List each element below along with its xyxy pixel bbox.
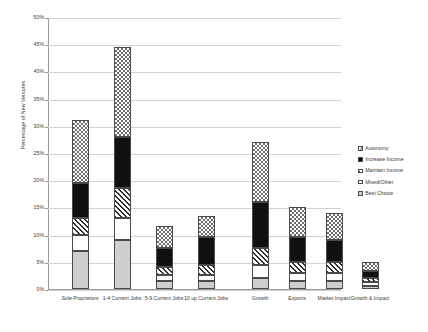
stacked-bar[interactable]	[362, 262, 379, 289]
y-axis-tick-label: 40%	[34, 70, 44, 75]
bar-group[interactable]	[72, 17, 89, 289]
bar-segment[interactable]	[156, 281, 173, 289]
legend-item[interactable]: Increase Income	[358, 154, 426, 165]
y-axis-tick	[45, 181, 48, 182]
y-axis-tick-label: 45%	[34, 43, 44, 48]
bar-group[interactable]	[114, 17, 131, 289]
bar-segment[interactable]	[72, 235, 89, 251]
stacked-bar[interactable]	[156, 226, 173, 289]
bar-group[interactable]	[326, 17, 343, 289]
bar-segment[interactable]	[326, 281, 343, 289]
y-axis-title: Percentage of New Ventures	[20, 40, 26, 190]
bar-segment[interactable]	[252, 278, 269, 289]
bar-segment[interactable]	[289, 237, 306, 261]
bar-segment[interactable]	[156, 267, 173, 275]
bar-segment[interactable]	[252, 142, 269, 202]
bar-segment[interactable]	[252, 248, 269, 264]
legend-swatch-icon	[358, 157, 363, 162]
bar-segment[interactable]	[289, 207, 306, 237]
y-axis-tick	[45, 127, 48, 128]
x-axis-tick-label: Growth & Impact	[344, 295, 396, 302]
y-axis-tick-label: 20%	[34, 179, 44, 184]
stacked-bar[interactable]	[114, 47, 131, 289]
legend-item-label: Autonomy	[365, 146, 388, 151]
bar-segment[interactable]	[289, 281, 306, 289]
bar-segment[interactable]	[114, 137, 131, 189]
bar-segment[interactable]	[72, 251, 89, 289]
bar-segment[interactable]	[362, 282, 379, 286]
y-axis-tick-label: 25%	[34, 151, 44, 156]
bar-segment[interactable]	[289, 262, 306, 273]
y-axis-tick-label: 0%	[37, 287, 45, 292]
bar-group[interactable]	[289, 17, 306, 289]
bar-segment[interactable]	[72, 183, 89, 218]
bar-segment[interactable]	[326, 213, 343, 240]
bar-segment[interactable]	[198, 237, 215, 264]
y-axis-tick	[45, 45, 48, 46]
bar-segment[interactable]	[198, 281, 215, 289]
bar-segment[interactable]	[326, 273, 343, 281]
bar-segment[interactable]	[114, 188, 131, 218]
y-axis-tick	[45, 154, 48, 155]
y-axis-tick	[45, 290, 48, 291]
legend: AutonomyIncrease IncomeMaintain IncomeMi…	[358, 143, 426, 199]
legend-item[interactable]: Mixed/Other	[358, 177, 426, 188]
bar-segment[interactable]	[252, 265, 269, 279]
stacked-bar[interactable]	[198, 216, 215, 289]
bar-segment[interactable]	[289, 273, 306, 281]
bar-segment[interactable]	[156, 248, 173, 267]
legend-swatch-icon	[358, 191, 363, 196]
legend-item-label: Mixed/Other	[365, 180, 393, 185]
legend-swatch-icon	[358, 180, 363, 185]
x-axis-tick-label: 10 up Current Jobs	[180, 295, 232, 302]
bar-segment[interactable]	[362, 271, 379, 278]
stacked-bar-chart: Percentage of New Ventures 0%5%10%15%20%…	[0, 0, 428, 332]
y-axis-tick-label: 35%	[34, 97, 44, 102]
bar-segment[interactable]	[156, 275, 173, 280]
bar-segment[interactable]	[198, 275, 215, 280]
stacked-bar[interactable]	[72, 120, 89, 289]
bar-segment[interactable]	[198, 216, 215, 238]
y-axis-tick-label: 15%	[34, 206, 44, 211]
y-axis-tick-label: 5%	[37, 260, 45, 265]
y-axis-tick-label: 30%	[34, 124, 44, 129]
bar-group[interactable]	[198, 17, 215, 289]
stacked-bar[interactable]	[289, 207, 306, 289]
plot-area: 0%5%10%15%20%25%30%35%40%45%50%	[48, 18, 341, 290]
legend-swatch-icon	[358, 169, 363, 174]
gridline	[48, 290, 341, 291]
bar-segment[interactable]	[326, 262, 343, 273]
y-axis-tick	[45, 263, 48, 264]
stacked-bar[interactable]	[326, 213, 343, 289]
y-axis-tick	[45, 100, 48, 101]
bar-segment[interactable]	[362, 262, 379, 271]
bar-segment[interactable]	[198, 265, 215, 276]
legend-item[interactable]: Maintain Income	[358, 165, 426, 176]
bar-segment[interactable]	[114, 240, 131, 289]
y-axis-tick	[45, 208, 48, 209]
legend-item[interactable]: Best Choice	[358, 188, 426, 199]
bar-segment[interactable]	[362, 278, 379, 282]
bar-segment[interactable]	[156, 226, 173, 248]
bar-segment[interactable]	[252, 202, 269, 248]
bar-segment[interactable]	[72, 120, 89, 183]
y-axis-tick-label: 10%	[34, 233, 44, 238]
stacked-bar[interactable]	[252, 142, 269, 289]
bar-group[interactable]	[156, 17, 173, 289]
legend-item-label: Maintain Income	[365, 168, 403, 173]
bar-segment[interactable]	[326, 240, 343, 262]
y-axis-tick	[45, 18, 48, 19]
legend-item[interactable]: Autonomy	[358, 143, 426, 154]
y-axis-tick	[45, 236, 48, 237]
bar-group[interactable]	[252, 17, 269, 289]
bar-segment[interactable]	[72, 218, 89, 234]
legend-item-label: Best Choice	[365, 191, 393, 196]
y-axis-tick	[45, 72, 48, 73]
legend-swatch-icon	[358, 146, 363, 151]
legend-item-label: Increase Income	[365, 157, 403, 162]
bar-segment[interactable]	[114, 47, 131, 137]
bar-segment[interactable]	[114, 218, 131, 240]
bar-segment[interactable]	[362, 286, 379, 289]
y-axis-tick-label: 50%	[34, 15, 44, 20]
